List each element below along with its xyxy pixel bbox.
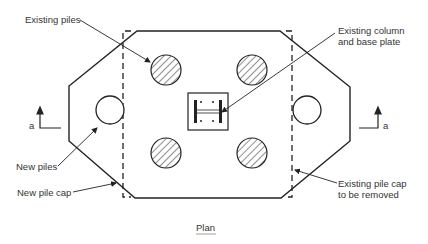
label-new-piles: New piles	[16, 161, 57, 172]
drawing-title: Plan	[196, 222, 215, 233]
label-existing-pile-cap: Existing pile cap to be removed	[338, 178, 407, 200]
label-new-pile-cap: New pile cap	[17, 187, 71, 198]
section-label-left: a	[29, 120, 34, 131]
section-marker-left	[37, 107, 61, 128]
new-pile-left	[96, 96, 124, 124]
label-existing-column: Existing column and base plate	[338, 25, 405, 47]
section-marker-right	[359, 107, 381, 128]
existing-pile-bottom-left	[151, 138, 181, 168]
existing-pile-bottom-right	[237, 138, 267, 168]
label-existing-piles: Existing piles	[25, 14, 80, 25]
new-pile-right	[293, 96, 321, 124]
section-label-right: a	[383, 120, 388, 131]
label-existing-pile-cap-line1: Existing pile cap	[338, 178, 407, 189]
label-existing-pile-cap-line2: to be removed	[338, 189, 407, 200]
label-existing-column-line1: Existing column	[338, 25, 405, 36]
existing-pile-top-right	[237, 55, 267, 85]
existing-pile-top-left	[151, 55, 181, 85]
label-existing-column-line2: and base plate	[338, 36, 405, 47]
